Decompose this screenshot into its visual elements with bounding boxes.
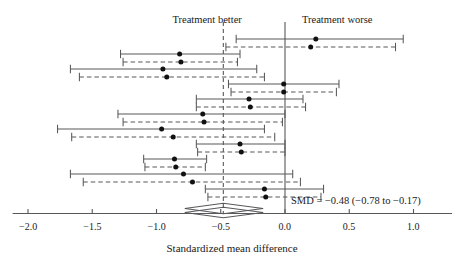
point-estimate-marker: [181, 172, 186, 177]
point-estimate-marker: [247, 97, 252, 102]
point-estimate-marker: [239, 150, 244, 155]
study-row-6-solid: [118, 110, 285, 118]
treatment-worse-label: Treatment worse: [302, 15, 372, 26]
x-axis-tick-label-4: 0.0: [279, 222, 292, 232]
point-estimate-marker: [202, 120, 207, 125]
study-row-4-solid: [228, 80, 339, 88]
summary-diamond-dashed: [185, 207, 263, 217]
study-row-2-dashed: [123, 58, 237, 66]
study-row-2-solid: [121, 50, 241, 58]
study-row-9-dashed: [145, 163, 205, 171]
study-row-5-dashed: [196, 103, 305, 111]
summary-diamond-solid: [185, 203, 263, 213]
study-row-3-solid: [70, 65, 256, 73]
x-axis-tick-label-2: −1.0: [148, 222, 166, 232]
forest-plot-canvas: [0, 0, 461, 263]
x-axis-title: Standardized mean difference: [167, 243, 298, 254]
study-row-6-dashed: [123, 118, 282, 126]
x-axis-tick-label-0: −2.0: [19, 222, 37, 232]
x-axis-tick-label-5: 0.5: [343, 222, 356, 232]
point-estimate-marker: [263, 195, 268, 200]
point-estimate-marker: [160, 67, 165, 72]
point-estimate-marker: [178, 60, 183, 65]
study-row-8-solid: [196, 140, 285, 148]
point-estimate-marker: [238, 142, 243, 147]
point-estimate-marker: [164, 75, 169, 80]
point-estimate-marker: [190, 180, 195, 185]
study-row-7-solid: [58, 125, 265, 133]
point-estimate-marker: [173, 165, 178, 170]
summary-smd-label: SMD = −0.48 (−0.78 to −0.17): [291, 196, 421, 207]
point-estimate-marker: [200, 112, 205, 117]
study-row-5-solid: [196, 95, 303, 103]
point-estimate-marker: [262, 187, 267, 192]
study-row-1-dashed: [226, 43, 396, 51]
x-axis-tick-label-6: 1.0: [407, 222, 420, 232]
point-estimate-marker: [171, 135, 176, 140]
study-row-3-dashed: [79, 73, 264, 81]
point-estimate-marker: [177, 52, 182, 57]
point-estimate-marker: [308, 45, 313, 50]
study-row-10-solid: [70, 170, 292, 178]
x-axis-tick-label-3: −0.5: [212, 222, 230, 232]
study-row-10-dashed: [83, 178, 300, 186]
point-estimate-marker: [159, 127, 164, 132]
x-axis-tick-label-1: −1.5: [83, 222, 101, 232]
point-estimate-marker: [248, 105, 253, 110]
point-estimate-marker: [313, 37, 318, 42]
point-estimate-marker: [172, 157, 177, 162]
study-row-1-solid: [236, 35, 403, 43]
forest-plot: Treatment better Treatment worse SMD = −…: [0, 0, 461, 263]
study-row-4-dashed: [231, 88, 336, 96]
treatment-better-label: Treatment better: [173, 15, 242, 26]
study-row-7-dashed: [72, 133, 275, 141]
study-row-8-dashed: [198, 148, 285, 156]
point-estimate-marker: [281, 82, 286, 87]
point-estimate-marker: [281, 90, 286, 95]
